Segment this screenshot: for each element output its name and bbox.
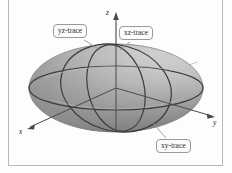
- ellipsoid-diagram: [0, 0, 232, 173]
- callout-xy-trace-label: xy-trace: [161, 141, 186, 150]
- y-axis-label: y: [213, 118, 216, 127]
- callout-xz-trace[interactable]: xz-trace: [119, 26, 153, 40]
- figure-page: yz-trace xz-trace xy-trace z x y: [0, 0, 232, 173]
- callout-yz-trace[interactable]: yz-trace: [53, 24, 87, 38]
- callout-xz-trace-label: xz-trace: [124, 28, 148, 37]
- x-axis-label: x: [19, 127, 22, 136]
- z-axis-label: z: [106, 8, 109, 17]
- x-axis-arrow: [27, 125, 35, 130]
- callout-xy-trace[interactable]: xy-trace: [156, 139, 191, 153]
- ellipsoid-svg: [0, 0, 232, 173]
- z-axis-arrow: [113, 12, 119, 20]
- callout-yz-trace-label: yz-trace: [58, 26, 82, 35]
